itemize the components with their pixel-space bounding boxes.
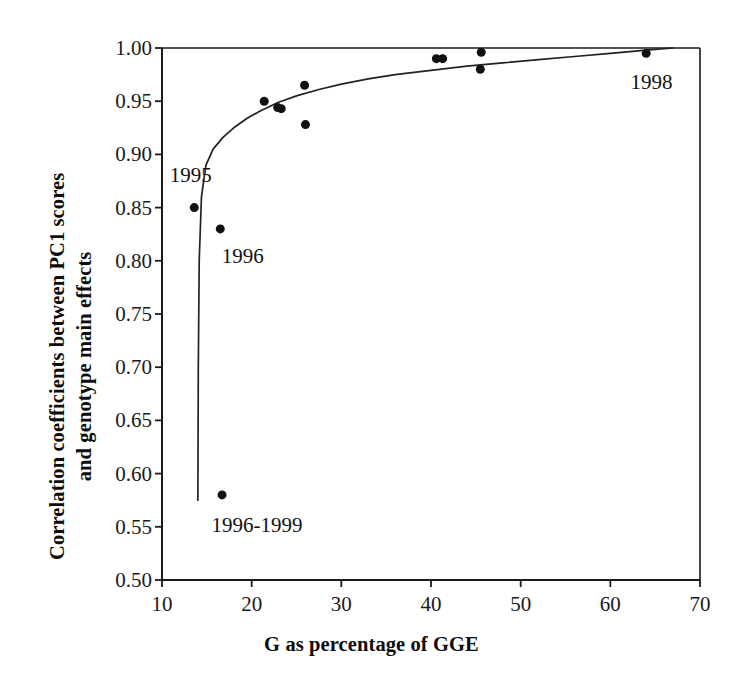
data-point-label: 1995 [170, 162, 212, 187]
y-axis-tick-label: 0.90 [70, 142, 152, 167]
x-axis-tick-label: 40 [421, 592, 442, 617]
data-point-marker [642, 49, 651, 58]
data-point-marker [260, 97, 269, 106]
data-point-label: 1996-1999 [212, 512, 303, 537]
y-axis-title: Correlation coefficients between PC1 sco… [44, 173, 98, 560]
data-point-marker [477, 48, 486, 57]
data-point-marker [216, 224, 225, 233]
y-axis-tick-label: 0.50 [70, 568, 152, 593]
x-axis-tick-label: 70 [690, 592, 711, 617]
x-axis-tick-label: 30 [331, 592, 352, 617]
x-axis-tick-label: 10 [152, 592, 173, 617]
data-point-label: 1996 [222, 243, 264, 268]
data-point-marker [190, 203, 199, 212]
x-axis-title: G as percentage of GGE [0, 633, 743, 656]
data-point-marker [277, 104, 286, 113]
data-point-label: 1998 [631, 70, 673, 95]
x-axis-tick-label: 50 [510, 592, 531, 617]
data-point-marker [218, 490, 227, 499]
y-axis-tick-label: 1.00 [70, 36, 152, 61]
y-axis-title-line-2: and genotype main effects [71, 173, 98, 560]
y-axis-tick-label: 0.95 [70, 89, 152, 114]
y-axis-title-container: Correlation coefficients between PC1 sco… [14, 0, 78, 600]
scatter-chart: 0.500.550.600.650.700.750.800.850.900.95… [0, 0, 743, 680]
data-point-marker [438, 54, 447, 63]
x-axis-tick-label: 60 [600, 592, 621, 617]
fitted-curve [198, 48, 673, 500]
data-point-marker [300, 81, 309, 90]
y-axis-title-line-1: Correlation coefficients between PC1 sco… [44, 173, 71, 560]
data-point-marker [476, 65, 485, 74]
x-axis-tick-label: 20 [241, 592, 262, 617]
data-point-marker [301, 120, 310, 129]
